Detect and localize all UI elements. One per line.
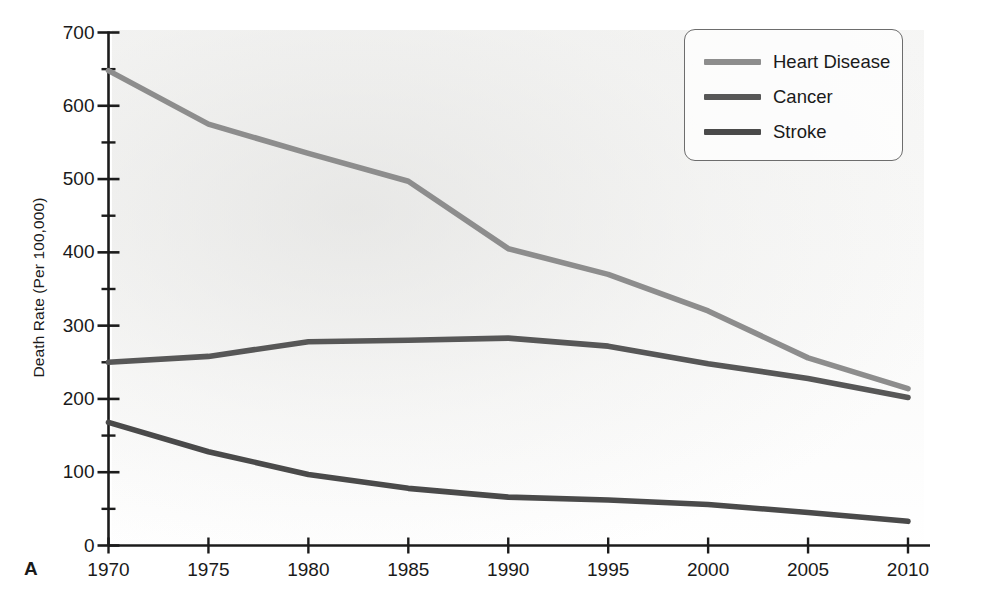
y-axis-tick-label: 100 [25, 462, 95, 481]
legend-swatch-heart-disease [704, 59, 761, 65]
y-axis-tick-label: 400 [25, 242, 95, 261]
legend-item: Cancer [704, 79, 902, 114]
legend-swatch-cancer [704, 94, 761, 100]
x-axis-tick-label: 1985 [368, 560, 448, 579]
x-axis-tick-label: 1995 [568, 560, 648, 579]
figure-panel-a: Death Rate (Per 100,000) 010020030040050… [0, 0, 986, 606]
legend-item: Heart Disease [704, 44, 902, 79]
y-axis-tick-label: 700 [25, 23, 95, 42]
y-axis-tick-label: 0 [25, 536, 95, 555]
panel-letter: A [24, 558, 38, 580]
legend-item: Stroke [704, 114, 902, 149]
x-axis-tick-label: 2010 [868, 560, 948, 579]
x-axis-tick-label: 2000 [668, 560, 748, 579]
x-axis-tick-label: 1990 [468, 560, 548, 579]
x-axis-tick-label: 2005 [768, 560, 848, 579]
chart-legend: Heart Disease Cancer Stroke [684, 29, 903, 161]
legend-label-heart-disease: Heart Disease [773, 52, 890, 71]
x-axis-tick-label: 1980 [268, 560, 348, 579]
legend-swatch-stroke [704, 129, 761, 135]
y-axis-tick-label: 600 [25, 96, 95, 115]
legend-label-cancer: Cancer [773, 87, 833, 106]
y-axis-tick-label: 300 [25, 316, 95, 335]
y-axis-tick-label: 200 [25, 389, 95, 408]
x-axis-tick-label: 1970 [69, 560, 149, 579]
legend-label-stroke: Stroke [773, 122, 826, 141]
x-axis-tick-label: 1975 [168, 560, 248, 579]
y-axis-tick-label: 500 [25, 169, 95, 188]
